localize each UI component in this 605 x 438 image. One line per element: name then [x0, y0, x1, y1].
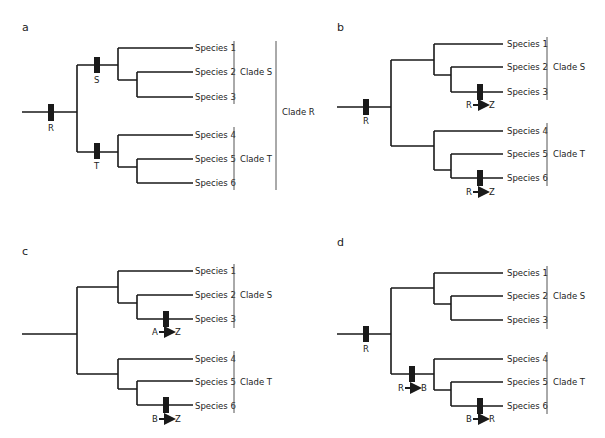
species-label: Species 3 — [507, 315, 548, 325]
trait-marker-clade-t — [409, 366, 415, 382]
clade-label: Clade T — [240, 154, 273, 164]
species-label: Species 3 — [507, 87, 548, 97]
species-label: Species 1 — [195, 43, 236, 53]
panel-label: d — [337, 236, 344, 249]
svg-text:Z: Z — [489, 187, 495, 197]
species-label: Species 2 — [507, 62, 548, 72]
species-label: Species 1 — [507, 268, 548, 278]
trait-marker-clade-t — [94, 143, 100, 159]
species-label: Species 4 — [195, 354, 236, 364]
svg-text:R: R — [466, 187, 472, 197]
panel-c: c A Z B Z Species 1 Species 2 Species 3 … — [22, 245, 273, 424]
svg-text:Z: Z — [175, 327, 181, 337]
species-label: Species 2 — [195, 290, 236, 300]
state-change-annotation: R B — [398, 383, 427, 393]
tree-branches — [337, 273, 503, 406]
marker-label: R — [48, 123, 54, 133]
panel-b: b R R Z R Z Species 1 Species 2 Species … — [337, 21, 586, 197]
trait-marker-species-6 — [477, 398, 483, 414]
trait-marker-root — [363, 326, 369, 342]
species-label: Species 6 — [507, 401, 548, 411]
state-change-annotation: R Z — [466, 100, 495, 110]
svg-text:A: A — [152, 327, 158, 337]
svg-text:B: B — [421, 383, 427, 393]
species-label: Species 5 — [507, 377, 548, 387]
species-label: Species 6 — [195, 401, 236, 411]
svg-text:B: B — [152, 414, 158, 424]
svg-text:Z: Z — [489, 100, 495, 110]
clade-brackets — [234, 41, 276, 190]
svg-text:R: R — [398, 383, 404, 393]
svg-text:B: B — [466, 414, 472, 424]
marker-label: T — [93, 161, 100, 171]
marker-label: S — [94, 75, 99, 85]
svg-text:R: R — [466, 100, 472, 110]
species-label: Species 5 — [507, 149, 548, 159]
trait-marker-species-3 — [477, 84, 483, 100]
species-label: Species 2 — [507, 291, 548, 301]
clade-label: Clade R — [282, 107, 315, 117]
species-label: Species 4 — [507, 126, 548, 136]
panel-label: b — [337, 21, 344, 34]
panel-label: a — [22, 21, 29, 34]
marker-label: R — [363, 116, 369, 126]
state-change-annotation: R Z — [466, 187, 495, 197]
clade-label: Clade T — [240, 377, 273, 387]
svg-text:R: R — [489, 414, 495, 424]
tree-branches — [337, 44, 503, 178]
trait-marker-root — [48, 104, 54, 121]
clade-label: Clade T — [553, 377, 586, 387]
clade-label: Clade T — [553, 149, 586, 159]
clade-label: Clade S — [553, 291, 585, 301]
panel-d: d R R B B R Species 1 Species 2 Species … — [337, 236, 586, 424]
clade-label: Clade S — [553, 62, 585, 72]
tree-branches — [22, 48, 193, 183]
species-label: Species 1 — [507, 39, 548, 49]
panel-a: a R S T Species 1 Species 2 Species 3 Sp… — [22, 21, 315, 190]
clade-label: Clade S — [240, 290, 272, 300]
state-change-annotation: B R — [466, 414, 495, 424]
species-label: Species 6 — [507, 173, 548, 183]
state-change-annotation: B Z — [152, 414, 181, 424]
trait-marker-species-3 — [163, 311, 169, 327]
species-label: Species 6 — [195, 178, 236, 188]
clade-label: Clade S — [240, 67, 272, 77]
species-label: Species 5 — [195, 377, 236, 387]
species-label: Species 5 — [195, 154, 236, 164]
svg-text:Z: Z — [175, 414, 181, 424]
species-label: Species 3 — [195, 92, 236, 102]
species-label: Species 1 — [195, 266, 236, 276]
species-label: Species 3 — [195, 314, 236, 324]
species-label: Species 4 — [507, 354, 548, 364]
species-label: Species 4 — [195, 130, 236, 140]
trait-marker-species-6 — [163, 397, 169, 413]
state-change-annotation: A Z — [152, 327, 181, 337]
species-label: Species 2 — [195, 67, 236, 77]
marker-label: R — [363, 344, 369, 354]
tree-branches — [22, 271, 193, 405]
trait-marker-clade-s — [94, 57, 100, 73]
trait-marker-species-6 — [477, 170, 483, 186]
panel-label: c — [22, 245, 28, 258]
trait-marker-root — [363, 99, 369, 115]
phylogeny-figure: a R S T Species 1 Species 2 Species 3 Sp… — [0, 0, 605, 438]
